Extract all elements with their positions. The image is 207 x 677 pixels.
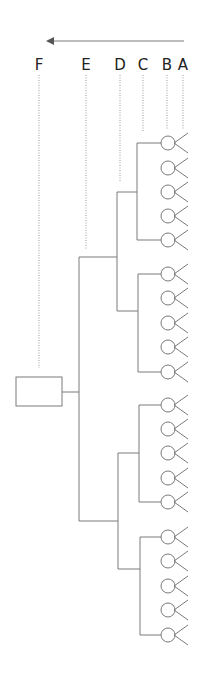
leaf-circle-icon — [161, 161, 175, 175]
leaf-branch-upper — [174, 625, 188, 635]
leaf-branch-upper — [174, 362, 188, 372]
level-label-b: B — [162, 56, 172, 74]
leaf-circle-icon — [161, 291, 175, 305]
leaf-circle-icon — [161, 365, 175, 379]
arrow-head-icon — [46, 37, 54, 45]
leaf-branch-lower — [174, 143, 188, 153]
leaf-circle-icon — [161, 316, 175, 330]
leaf-circle-icon — [161, 603, 175, 617]
leaf-branch-lower — [174, 453, 188, 463]
leaf-branch-upper — [174, 230, 188, 240]
leaf-branch-lower — [174, 347, 188, 357]
leaf-branch-upper — [174, 419, 188, 429]
level-label-a: A — [178, 56, 188, 74]
leaf-circle-icon — [161, 422, 175, 436]
leaf-branch-lower — [174, 429, 188, 439]
leaf-branch-upper — [174, 468, 188, 478]
leaf-branch-lower — [174, 240, 188, 250]
leaf-circle-icon — [161, 398, 175, 412]
leaf-branch-lower — [174, 168, 188, 178]
leaf-branch-lower — [174, 192, 188, 202]
leaf-circle-icon — [161, 446, 175, 460]
leaf-branch-lower — [174, 586, 188, 596]
leaf-circle-icon — [161, 495, 175, 509]
leaf-branch-lower — [174, 298, 188, 308]
leaf-branch-lower — [174, 372, 188, 382]
leaf-branch-upper — [174, 158, 188, 168]
leaf-branch-upper — [174, 600, 188, 610]
leaf-branch-lower — [174, 610, 188, 620]
leaf-branch-upper — [174, 443, 188, 453]
leaf-branch-upper — [174, 182, 188, 192]
leaf-circle-icon — [161, 136, 175, 150]
leaf-branch-lower — [174, 537, 188, 547]
leaf-circle-icon — [161, 628, 175, 642]
leaf-branch-upper — [174, 527, 188, 537]
leaf-circle-icon — [161, 340, 175, 354]
leaf-branch-lower — [174, 405, 188, 415]
leaf-branch-upper — [174, 551, 188, 561]
leaf-branch-upper — [174, 576, 188, 586]
leaf-branch-upper — [174, 264, 188, 274]
level-label-e: E — [81, 56, 90, 74]
leaf-branch-lower — [174, 274, 188, 284]
leaf-branch-lower — [174, 216, 188, 226]
leaf-branch-lower — [174, 635, 188, 645]
leaf-branch-lower — [174, 478, 188, 488]
leaf-circle-icon — [161, 267, 175, 281]
leaf-circle-icon — [161, 579, 175, 593]
leaf-branch-upper — [174, 288, 188, 298]
leaf-branch-lower — [174, 502, 188, 512]
root-node-box — [16, 377, 62, 406]
leaf-branch-lower — [174, 323, 188, 333]
leaf-circle-icon — [161, 471, 175, 485]
tree-diagram — [0, 0, 207, 677]
level-label-f: F — [35, 56, 44, 74]
leaf-branch-lower — [174, 561, 188, 571]
level-label-d: D — [114, 56, 126, 74]
leaf-branch-upper — [174, 395, 188, 405]
leaf-circle-icon — [161, 530, 175, 544]
leaf-branch-upper — [174, 206, 188, 216]
leaf-branch-upper — [174, 337, 188, 347]
leaf-circle-icon — [161, 233, 175, 247]
leaf-branch-upper — [174, 133, 188, 143]
leaf-circle-icon — [161, 185, 175, 199]
leaf-branch-upper — [174, 492, 188, 502]
level-label-c: C — [138, 56, 148, 74]
leaf-circle-icon — [161, 554, 175, 568]
leaf-branch-upper — [174, 313, 188, 323]
leaf-circle-icon — [161, 209, 175, 223]
